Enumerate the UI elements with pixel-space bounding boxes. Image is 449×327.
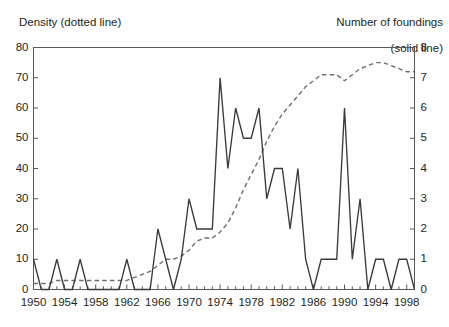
right-tick-4: 4 [421,162,427,174]
right-tick-8: 8 [421,41,427,53]
axis-ticks [34,78,415,290]
left-tick-20: 20 [16,222,29,234]
x-tick-1998: 1998 [387,296,427,308]
left-tick-50: 50 [16,131,29,143]
right-tick-0: 0 [421,283,427,295]
chart-canvas [0,0,449,327]
left-tick-10: 10 [16,252,29,264]
right-tick-6: 6 [421,101,427,113]
left-tick-60: 60 [16,101,29,113]
right-tick-7: 7 [421,71,427,83]
right-tick-5: 5 [421,131,427,143]
right-tick-2: 2 [421,222,427,234]
density-dotted-line [34,63,415,284]
left-tick-40: 40 [16,162,29,174]
right-tick-1: 1 [421,252,427,264]
right-tick-3: 3 [421,192,427,204]
left-tick-80: 80 [16,41,29,53]
left-tick-70: 70 [16,71,29,83]
foundings-solid-line [34,78,415,290]
left-tick-30: 30 [16,192,29,204]
left-tick-0: 0 [22,283,28,295]
chart-figure: Density (dotted line) Number of founding… [0,0,449,327]
